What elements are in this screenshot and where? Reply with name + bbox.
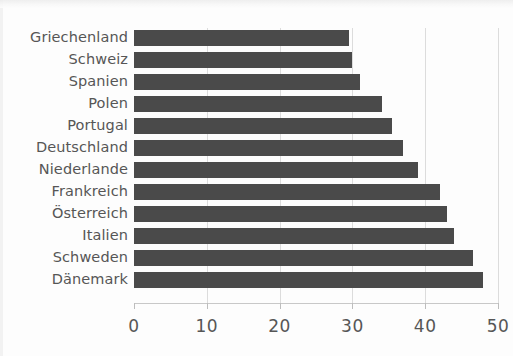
x-axis-tick-label: 40 (414, 316, 437, 336)
gridline (498, 28, 499, 303)
bar-chart: GriechenlandSchweizSpanienPolenPortugalD… (0, 0, 513, 356)
x-axis-tick (134, 303, 135, 309)
x-axis-tick-label: 20 (268, 316, 291, 336)
x-axis-tick (352, 303, 353, 309)
category-label: Portugal (2, 117, 128, 133)
bar (134, 162, 418, 178)
bar (134, 184, 440, 200)
category-label: Schweden (2, 249, 128, 265)
bar (134, 30, 349, 46)
category-label: Frankreich (2, 183, 128, 199)
bar (134, 228, 454, 244)
x-axis-tick-label: 30 (341, 316, 364, 336)
x-axis-tick (425, 303, 426, 309)
x-axis-line (134, 303, 498, 304)
category-label: Griechenland (2, 29, 128, 45)
x-axis-tick (498, 303, 499, 309)
bar (134, 206, 447, 222)
x-axis-tick-label: 0 (128, 316, 139, 336)
x-axis-tick (280, 303, 281, 309)
category-label: Polen (2, 95, 128, 111)
bar (134, 118, 392, 134)
x-axis-tick-label: 10 (195, 316, 218, 336)
category-label: Deutschland (2, 139, 128, 155)
bar (134, 52, 352, 68)
bar (134, 250, 473, 266)
category-label: Spanien (2, 73, 128, 89)
category-axis-labels: GriechenlandSchweizSpanienPolenPortugalD… (0, 0, 128, 356)
category-label: Österreich (2, 205, 128, 221)
x-axis-tick-label: 50 (487, 316, 510, 336)
category-label: Schweiz (2, 51, 128, 67)
bar (134, 272, 483, 288)
category-label: Niederlande (2, 161, 128, 177)
category-label: Italien (2, 227, 128, 243)
bar (134, 140, 403, 156)
category-label: Dänemark (2, 271, 128, 287)
x-axis-tick (207, 303, 208, 309)
bar (134, 74, 360, 90)
plot-area (134, 28, 498, 303)
bar (134, 96, 382, 112)
